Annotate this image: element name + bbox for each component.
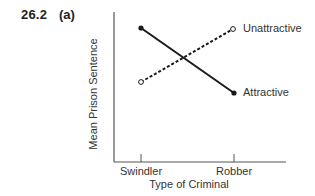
x-axis-label: Type of Criminal	[149, 178, 228, 190]
series-label-unattractive: Unattractive	[243, 22, 302, 34]
series-attractive-line	[141, 28, 234, 93]
series-unattractive-point-swindler	[139, 80, 144, 85]
series-unattractive-point-robber	[231, 27, 236, 32]
x-tick-label-swindler: Swindler	[120, 165, 162, 177]
x-tick-label-robber: Robber	[216, 165, 252, 177]
series-attractive-point-robber	[231, 90, 236, 95]
y-axis-label: Mean Prison Sentence	[87, 38, 99, 149]
series-attractive-point-swindler	[138, 25, 143, 30]
series-label-attractive: Attractive	[243, 86, 289, 98]
